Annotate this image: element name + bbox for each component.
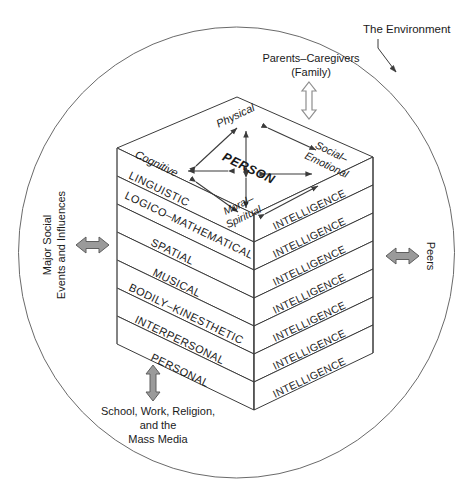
environment-label: The Environment — [363, 23, 451, 35]
diagram-svg: The Environment — [0, 0, 475, 496]
major-social-label-line1: Major Social — [41, 215, 53, 276]
school-work-label-line3: Mass Media — [128, 433, 188, 445]
school-work-label-line2: and the — [140, 419, 177, 431]
diagram-canvas: The Environment — [0, 0, 475, 496]
peers-arrow — [386, 248, 419, 264]
school-work-label-line1: School, Work, Religion, — [101, 405, 215, 417]
school-work-arrow — [146, 365, 160, 401]
peers-label: Peers — [425, 242, 437, 271]
major-social-arrow — [76, 237, 109, 253]
parents-caregivers-arrow — [302, 82, 316, 119]
environment-leader-arrowhead — [390, 66, 396, 73]
parents-caregivers-label-line1: Parents–Caregivers — [262, 52, 360, 64]
major-social-label-line2: Events and Influences — [55, 190, 67, 299]
parents-caregivers-label-line2: (Family) — [291, 66, 331, 78]
